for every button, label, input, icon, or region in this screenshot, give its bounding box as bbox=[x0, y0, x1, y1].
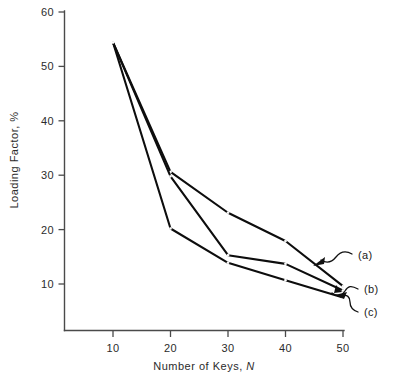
x-tick-label: 40 bbox=[279, 342, 292, 354]
y-tick-label: 20 bbox=[41, 224, 54, 236]
x-tick-label: 30 bbox=[221, 342, 234, 354]
y-axis-title: Loading Factor, % bbox=[8, 111, 20, 208]
y-tick-label: 10 bbox=[41, 278, 54, 290]
data-point bbox=[112, 41, 114, 43]
data-point bbox=[169, 175, 171, 177]
x-axis-title-symbol: N bbox=[246, 360, 254, 372]
y-tick-label: 50 bbox=[41, 60, 54, 72]
x-axis-title: Number of Keys, N bbox=[153, 360, 254, 372]
x-tick-label: 50 bbox=[336, 342, 349, 354]
data-point bbox=[342, 285, 344, 287]
data-point bbox=[284, 279, 286, 281]
callout-a-label: (a) bbox=[358, 249, 372, 261]
x-tick-label: 20 bbox=[164, 342, 177, 354]
data-point bbox=[284, 240, 286, 242]
data-point bbox=[227, 254, 229, 256]
callout-c-label: (c) bbox=[364, 306, 378, 318]
data-point bbox=[227, 212, 229, 214]
data-point bbox=[342, 289, 344, 291]
y-tick-label: 30 bbox=[41, 169, 54, 181]
x-axis-title-text: Number of Keys, bbox=[153, 360, 246, 372]
callout-b-label: (b) bbox=[364, 283, 378, 295]
y-tick-label: 60 bbox=[41, 6, 54, 18]
data-point bbox=[284, 263, 286, 265]
data-point bbox=[169, 227, 171, 229]
y-tick-label: 40 bbox=[41, 115, 54, 127]
data-point bbox=[227, 262, 229, 264]
loading-factor-chart: 102030405060 1020304050 (a) (b) (c) Numb… bbox=[0, 0, 401, 385]
x-tick-label: 10 bbox=[106, 342, 119, 354]
